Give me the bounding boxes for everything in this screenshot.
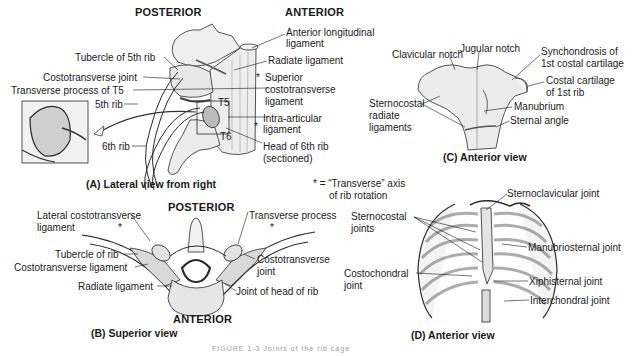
legend-star-axis-2: of rib rotation bbox=[329, 190, 387, 201]
label-clavicular-notch: Clavicular notch bbox=[392, 49, 463, 60]
label-sternocostal-radiate-2: radiate bbox=[369, 110, 400, 121]
label-interchondral-joint: Interchondral joint bbox=[530, 295, 610, 306]
panel-b-posterior-header: POSTERIOR bbox=[168, 201, 235, 213]
label-synchondrosis-2: 1st costal cartilage bbox=[541, 58, 624, 69]
label-sternocostal-joints: Sternocostal bbox=[351, 211, 407, 222]
label-synchondrosis: Synchondrosis of bbox=[541, 46, 618, 57]
legend-star-axis: * = “Transverse” axis bbox=[313, 178, 405, 189]
label-intra-articular: Intra-articular bbox=[263, 113, 322, 124]
label-joint-of-head-of-rib: Joint of head of rib bbox=[236, 286, 318, 297]
panel-b-caption: (B) Superior view bbox=[91, 327, 177, 339]
label-5th-rib: 5th rib bbox=[95, 99, 123, 110]
label-transverse-process: Transverse process bbox=[249, 210, 336, 221]
label-intra-articular-2: ligament bbox=[263, 124, 301, 135]
panel-a-posterior-header: POSTERIOR bbox=[135, 6, 202, 18]
label-star-b-right: * bbox=[270, 222, 274, 233]
label-costochondral-joint-2: joint bbox=[344, 280, 362, 291]
panel-a-anterior-header: ANTERIOR bbox=[285, 6, 344, 18]
label-costotransverse-joint-a: Costotransverse joint bbox=[43, 72, 137, 83]
label-radiate-ligament-a: Radiate ligament bbox=[268, 55, 343, 66]
label-t5: T5 bbox=[218, 97, 230, 108]
label-costotransverse-joint-b-2: joint bbox=[257, 266, 275, 277]
label-tubercle-5th-rib: Tubercle of 5th rib bbox=[75, 52, 155, 63]
label-t6: T6 bbox=[220, 131, 232, 142]
panel-c-caption: (C) Anterior view bbox=[443, 151, 527, 163]
label-superior-costotransverse: Superior bbox=[265, 72, 303, 83]
label-tubercle-of-rib: Tubercle of rib bbox=[55, 249, 119, 260]
label-star-a1: * bbox=[256, 72, 260, 83]
joint-inset-illustration bbox=[22, 101, 88, 163]
label-costal-cartilage: Costal cartilage bbox=[546, 75, 615, 86]
label-costal-cartilage-2: of 1st rib bbox=[546, 87, 584, 98]
label-sternoclavicular-joint: Sternoclavicular joint bbox=[507, 188, 599, 199]
label-manubriosternal-joint: Manubriosternal joint bbox=[528, 242, 621, 253]
label-manubrium: Manubrium bbox=[514, 101, 564, 112]
label-anterior-longitudinal-ligament: Anterior longitudinal bbox=[286, 27, 374, 38]
label-superior-costotransverse-3: ligament bbox=[265, 96, 303, 107]
label-star-a2: * bbox=[254, 121, 258, 132]
label-costotransverse-ligament: Costotransverse ligament bbox=[14, 262, 127, 273]
label-radiate-ligament-b: Radiate ligament bbox=[78, 281, 153, 292]
label-superior-costotransverse-2: costotransverse bbox=[265, 84, 336, 95]
label-lateral-costotransverse: Lateral costotransverse bbox=[37, 210, 141, 221]
panel-d-caption: (D) Anterior view bbox=[411, 329, 495, 341]
label-transverse-process-t5: Transverse process of T5 bbox=[11, 85, 124, 96]
manubrium-illustration bbox=[418, 65, 528, 150]
label-head-6th-rib: Head of 6th rib bbox=[263, 141, 329, 152]
label-anterior-longitudinal-ligament-2: ligament bbox=[286, 38, 324, 49]
label-costochondral-joint: Costochondral bbox=[344, 268, 408, 279]
label-sternocostal-joints-2: joints bbox=[351, 223, 374, 234]
label-head-6th-rib-2: (sectioned) bbox=[263, 153, 312, 164]
label-sternal-angle: Sternal angle bbox=[510, 115, 569, 126]
label-star-b-left: * bbox=[118, 222, 122, 233]
label-6th-rib: 6th rib bbox=[102, 141, 130, 152]
label-lateral-costotransverse-2: ligament bbox=[37, 222, 75, 233]
label-costotransverse-joint-b: Costotransverse bbox=[257, 254, 330, 265]
label-sternocostal-radiate-3: ligaments bbox=[369, 122, 412, 133]
label-sternocostal-radiate: Sternocostal bbox=[369, 98, 425, 109]
label-jugular-notch: Jugular notch bbox=[460, 43, 520, 54]
label-xiphisternal-joint: Xiphisternal joint bbox=[529, 276, 602, 287]
figure-caption: FIGURE 1-3 Joints of the rib cage bbox=[212, 345, 350, 352]
panel-a-caption: (A) Lateral view from right bbox=[86, 178, 216, 190]
panel-b-anterior-header: ANTERIOR bbox=[173, 313, 232, 325]
